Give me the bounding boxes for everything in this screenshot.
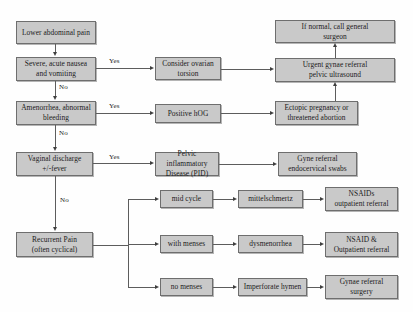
node-gynae-referral-surgery[interactable]: Gynae referral surgery <box>325 275 398 299</box>
arrowhead-vaginal-to-recurrent <box>53 227 57 231</box>
edge-label-no-3: No <box>60 196 69 204</box>
edge-bus-to-no-menses <box>128 287 156 288</box>
arrowhead-bus-to-with-menses <box>155 242 159 246</box>
node-nsaids-outpatient-referral[interactable]: NSAIDs outpatient referral <box>325 187 398 211</box>
arrowhead-no-menses-to-imperforate-hymen <box>233 285 237 289</box>
node-with-menses[interactable]: with menses <box>160 235 213 253</box>
node-gyne-referral-endocervical-swabs[interactable]: Gyne referral endocervical swabs <box>278 152 357 176</box>
node-imperforate-hymen[interactable]: Imperforate hymen <box>238 278 307 296</box>
edge-pid-to-gyne-swabs <box>219 164 274 165</box>
edge-mid-cycle-to-mittelschmertz <box>213 199 234 200</box>
arrowhead-bus-to-no-menses <box>155 285 159 289</box>
edge-mittelschmertz-to-nsaids <box>303 199 321 200</box>
arrowhead-urgent-referral-to-surgeon <box>333 43 337 47</box>
node-ectopic-pregnancy-threatened-abortion[interactable]: Ectopic pregnancy or threatened abortion <box>275 101 358 125</box>
edge-dysmenorrhea-to-nsaid <box>303 244 321 245</box>
arrowhead-torsion-to-urgent-referral <box>270 67 274 71</box>
arrowhead-ectopic-to-urgent-referral <box>333 82 337 86</box>
edge-label-yes-2: Yes <box>109 102 120 110</box>
edge-label-yes-3: Yes <box>109 153 120 161</box>
edge-with-menses-to-dysmenorrhea <box>213 244 234 245</box>
edge-imperforate-hymen-to-gynae-surgery <box>307 287 321 288</box>
edge-severe-to-torsion <box>96 68 151 69</box>
arrowhead-hcg-to-ectopic <box>270 111 274 115</box>
node-positive-hcg[interactable]: Positive hOG <box>155 104 221 123</box>
edge-ectopic-to-urgent-referral <box>335 86 336 101</box>
node-urgent-gynae-referral-pelvic-ultrasound[interactable]: Urgent gynae referral pelvic ultrasound <box>275 58 395 82</box>
arrowhead-mittelschmertz-to-nsaids <box>320 197 324 201</box>
node-nsaid-outpatient-referral[interactable]: NSAID & Outpatient referral <box>325 232 398 257</box>
arrowhead-pain-to-severe <box>53 52 57 56</box>
node-if-normal-call-general-surgeon[interactable]: If normal, call general surgeon <box>275 20 395 43</box>
edge-no-menses-to-imperforate-hymen <box>213 287 234 288</box>
arrowhead-amenorrhea-to-vaginal <box>53 147 57 151</box>
edge-vaginal-to-pid <box>93 163 151 164</box>
edge-urgent-referral-to-surgeon <box>335 47 336 58</box>
arrowhead-imperforate-hymen-to-gynae-surgery <box>320 285 324 289</box>
edge-severe-to-amenorrhea <box>55 81 56 97</box>
node-severe-acute-nausea-and-vomiting[interactable]: Severe, acute nausea and vomiting <box>16 57 96 81</box>
node-amenorrhea-abnormal-bleeding[interactable]: Amenorrhea, abnormal bleeding <box>16 101 96 125</box>
edge-amenorrhea-to-vaginal <box>55 125 56 148</box>
arrowhead-severe-to-amenorrhea <box>53 96 57 100</box>
edge-vaginal-to-recurrent <box>55 176 56 228</box>
node-lower-abdominal-pain[interactable]: Lower abdominal pain <box>16 21 96 44</box>
edge-hcg-to-ectopic <box>221 113 271 114</box>
arrowhead-vaginal-to-pid <box>150 161 154 165</box>
arrowhead-dysmenorrhea-to-nsaid <box>320 242 324 246</box>
edge-bus-to-with-menses <box>128 244 156 245</box>
node-mittelschmertz[interactable]: mittelschmertz <box>238 190 303 208</box>
arrowhead-severe-to-torsion <box>150 66 154 70</box>
edge-amenorrhea-to-hcg <box>96 113 151 114</box>
arrowhead-bus-to-mid-cycle <box>155 197 159 201</box>
flowchart-canvas: Lower abdominal pain Severe, acute nause… <box>0 0 413 312</box>
node-no-menses[interactable]: no menses <box>160 278 213 296</box>
arrowhead-pid-to-gyne-swabs <box>273 162 277 166</box>
arrowhead-mid-cycle-to-mittelschmertz <box>233 197 237 201</box>
edge-bus-to-mid-cycle <box>128 199 156 200</box>
node-vaginal-discharge-fever[interactable]: Vaginal discharge +/-fever <box>16 152 93 176</box>
node-dysmenorrhea[interactable]: dysmenorrhea <box>238 235 303 253</box>
arrowhead-amenorrhea-to-hcg <box>150 111 154 115</box>
edge-label-no-2: No <box>59 129 68 137</box>
arrowhead-with-menses-to-dysmenorrhea <box>233 242 237 246</box>
node-mid-cycle[interactable]: mid cycle <box>160 190 213 208</box>
edge-label-no-1: No <box>59 83 68 91</box>
edge-recurrent-pain-stem <box>93 245 129 246</box>
node-consider-ovarian-torsion[interactable]: Consider ovarian torsion <box>155 57 221 80</box>
edge-recurrent-pain-bus <box>128 199 129 287</box>
node-pelvic-inflammatory-disease[interactable]: Pelvic inflammatory Disease (PID) <box>155 152 219 176</box>
edge-torsion-to-urgent-referral <box>221 69 271 70</box>
edge-label-yes-1: Yes <box>109 57 120 65</box>
node-recurrent-pain-often-cyclical[interactable]: Recurrent Pain (often cyclical) <box>16 232 93 257</box>
